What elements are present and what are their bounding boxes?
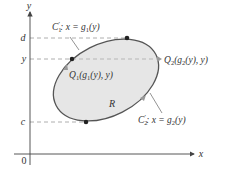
- c2-leader-line: [150, 93, 162, 113]
- region-label: R: [108, 98, 115, 109]
- y-axis-label: y: [26, 0, 32, 11]
- point-top-d: [125, 36, 130, 41]
- q2-point-label: Q2(g2(y), y): [164, 55, 208, 66]
- c1-curve-label: C1′: x = g1(y): [52, 20, 100, 33]
- origin-label: 0: [22, 155, 27, 166]
- point-bottom-c: [84, 120, 89, 125]
- point-q1: [70, 57, 75, 62]
- level-d-label: d: [21, 32, 27, 43]
- point-q2-arrow-icon: [157, 56, 162, 62]
- level-c-label: c: [21, 116, 26, 127]
- c2-curve-label: C2′: x = g2(y): [138, 113, 186, 126]
- green-theorem-diagram: y x 0 d y c R C1′: x = g1(y) Q1(g1(y), y…: [0, 0, 227, 171]
- level-y-label: y: [21, 53, 27, 64]
- x-axis-label: x: [198, 148, 204, 159]
- q1-point-label: Q1(g1(y), y): [69, 70, 113, 81]
- c1-leader-line: [70, 37, 79, 50]
